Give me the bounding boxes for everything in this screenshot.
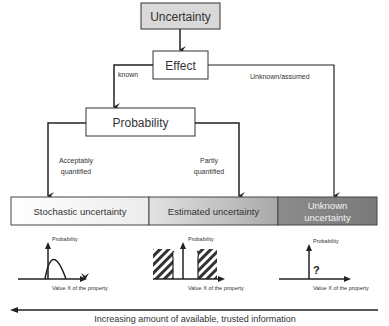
unknown-marker: ? [313, 264, 320, 276]
category-unknown-label-2: uncertainty [304, 212, 351, 223]
node-uncertainty: Uncertainty [141, 3, 220, 29]
category-estimated-label: Estimated uncertainty [168, 206, 260, 217]
left-arrow-icon [10, 307, 18, 313]
uncertainty-diagram: Uncertainty Effect known Unknown/assumed… [0, 0, 389, 326]
plot-estimated: Probability Value X of the property [153, 236, 244, 291]
node-effect-label: Effect [165, 59, 196, 73]
plot-y-label: Probability [52, 236, 78, 242]
arrow-caption: Increasing amount of available, trusted … [94, 314, 296, 324]
edge-label-acceptably-2: quantified [61, 168, 91, 176]
plot-y-label: Probability [313, 238, 339, 244]
plot-stochastic: Probability Value X of the property [18, 236, 108, 291]
node-probability: Probability [86, 108, 195, 136]
y-axis-arrow [180, 242, 186, 249]
plot-unknown: Probability ? Value X of the property [279, 238, 369, 291]
edge-label-partly-2: quantified [194, 168, 224, 176]
category-stochastic-label: Stochastic uncertainty [34, 206, 127, 217]
node-probability-label: Probability [112, 116, 168, 130]
hatched-region-right [198, 249, 217, 279]
edge-label-known: known [118, 71, 138, 78]
y-axis-arrow [306, 244, 312, 251]
category-unknown-label-1: Unknown [308, 200, 348, 211]
plot-x-label: Value X of the property [52, 285, 108, 291]
information-arrow: Increasing amount of available, trusted … [10, 307, 378, 324]
plot-y-label: Probability [188, 236, 214, 242]
plot-x-label: Value X of the property [313, 285, 369, 291]
node-uncertainty-label: Uncertainty [150, 10, 211, 24]
y-axis-arrow [45, 242, 51, 249]
hatched-region-left [153, 249, 173, 279]
edge-label-partly-1: Partly [200, 157, 218, 165]
category-bar: Stochastic uncertainty Estimated uncerta… [11, 197, 377, 225]
edge-effect-unknown [208, 65, 334, 196]
node-effect: Effect [153, 51, 208, 79]
plot-x-label: Value X of the property [188, 285, 244, 291]
edge-label-acceptably-1: Acceptably [59, 157, 94, 165]
edge-label-unknown-assumed: Unknown/assumed [250, 73, 310, 80]
